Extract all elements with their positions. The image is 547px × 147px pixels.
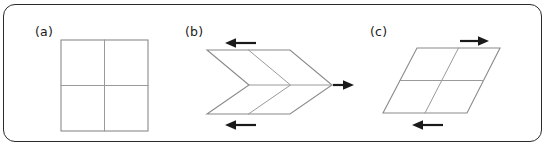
panel-label-c: (c)	[370, 24, 387, 39]
figure-container: (a) (b) (c)	[0, 0, 547, 147]
panel-label-b: (b)	[185, 24, 203, 39]
panel-label-a: (a)	[35, 24, 53, 39]
figure-border-frame	[3, 4, 542, 142]
